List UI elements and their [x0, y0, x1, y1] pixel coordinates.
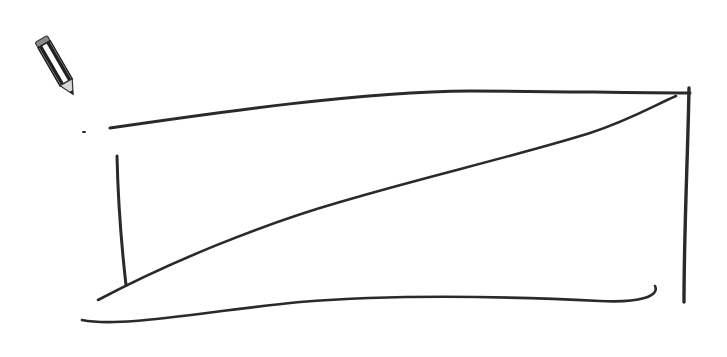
pencil-icon	[30, 34, 78, 104]
bottom-edge-stroke	[82, 286, 656, 322]
sketch-canvas[interactable]: Sketch canvas	[0, 0, 727, 357]
diagonal-stroke	[98, 96, 676, 300]
pencil-tool-button[interactable]: Pencil tool	[30, 34, 78, 104]
right-edge-stroke	[684, 88, 689, 302]
left-edge-stroke	[117, 156, 126, 285]
sketch-drawing	[0, 0, 727, 357]
top-edge-stroke	[110, 91, 690, 128]
